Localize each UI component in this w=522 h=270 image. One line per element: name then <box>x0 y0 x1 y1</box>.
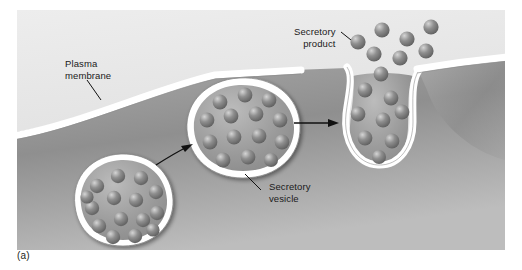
secretory-vesicle-docked <box>187 78 300 178</box>
secretory-vesicle-free <box>75 154 174 246</box>
label-secretory-product: Secretory product <box>294 26 336 49</box>
exocytosis-figure: Plasma membrane Secretory product Secret… <box>0 0 522 270</box>
figure-caption: (a) <box>17 250 30 261</box>
scene-graphic <box>17 10 505 250</box>
illustration-panel: Plasma membrane Secretory product Secret… <box>17 10 505 250</box>
label-plasma-membrane: Plasma membrane <box>65 58 111 81</box>
label-secretory-vesicle: Secretory vesicle <box>269 181 311 204</box>
